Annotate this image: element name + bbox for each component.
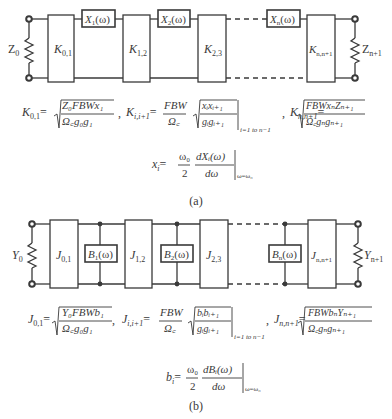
terminal-icon — [26, 75, 32, 81]
terminal-icon — [29, 281, 35, 287]
inverter-label-k23: K2,3 — [203, 42, 222, 58]
separator: , — [118, 106, 121, 120]
caption-b: (b) — [189, 399, 203, 413]
svg-text:ω=ω₀: ω=ω₀ — [237, 172, 253, 180]
svg-text:Ω꜀g₀g₁: Ω꜀g₀g₁ — [62, 322, 93, 334]
svg-text:2: 2 — [190, 380, 196, 392]
junction-dot-icon — [98, 282, 103, 287]
terminal-icon — [355, 221, 361, 227]
svg-text:Ω꜀gₙgₙ₊₁: Ω꜀gₙgₙ₊₁ — [306, 116, 343, 127]
inverter-box-j23 — [200, 220, 228, 288]
svg-text:gᵢgᵢ₊₁: gᵢgᵢ₊₁ — [197, 323, 219, 334]
inverter-label-k12: K1,2 — [128, 42, 147, 58]
svg-text:FBW: FBW — [163, 99, 187, 111]
load-resistor-icon — [354, 224, 362, 284]
filter-diagrams: Z0 Zn+1 K0,1 K1,2 K2,3 Kn,n+1 X1(ω) X2(ω… — [0, 0, 392, 419]
equation-j01: J0,1= Y₀FBWb₁ Ω꜀g₀g₁ — [28, 306, 104, 334]
separator: , — [282, 106, 285, 120]
svg-text:FBWbₙYₙ₊₁: FBWbₙYₙ₊₁ — [307, 307, 356, 318]
source-resistor-icon — [25, 19, 33, 78]
svg-text:J0,1=: J0,1= — [28, 312, 50, 328]
junction-dot-icon — [283, 282, 288, 287]
svg-text:Y₀FBWb₁: Y₀FBWb₁ — [62, 306, 104, 318]
terminal-icon — [26, 16, 32, 22]
svg-text:Ω꜀: Ω꜀ — [168, 115, 180, 127]
separator: , — [112, 313, 115, 327]
equation-jnn1: Jn,n+1= FBWbₙYₙ₊₁ Ω꜀gₙgₙ₊₁ — [274, 307, 356, 334]
inverter-label-jnn1: Jn,n+1 — [311, 249, 333, 264]
susceptance-label-b1: B1(ω) — [88, 248, 113, 262]
svg-text:gᵢgᵢ₊₁: gᵢgᵢ₊₁ — [202, 116, 224, 127]
svg-text:FBW: FBW — [159, 306, 183, 318]
svg-text:i=1 to n−1: i=1 to n−1 — [234, 333, 265, 341]
svg-text:K0,1=: K0,1= — [21, 105, 47, 121]
svg-text:2: 2 — [182, 167, 188, 179]
svg-text:FBWxₙZₙ₊₁: FBWxₙZₙ₊₁ — [305, 100, 353, 111]
inverter-box-j01 — [50, 220, 78, 288]
inverter-label-j23: J2,3 — [206, 248, 221, 264]
equation-kii1: Ki,i+1= FBW Ω꜀ xᵢxᵢ₊₁ gᵢgᵢ₊₁ i=1 to n−1 — [125, 99, 271, 134]
reactance-label-xn: Xn(ω) — [269, 13, 295, 27]
reactance-label-x2: X2(ω) — [160, 13, 186, 27]
terminal-icon — [29, 221, 35, 227]
junction-dot-icon — [283, 222, 288, 227]
svg-text:bi=: bi= — [166, 370, 181, 386]
junction-dot-icon — [98, 222, 103, 227]
reactance-label-x1: X1(ω) — [84, 13, 110, 27]
svg-text:dω: dω — [205, 167, 219, 179]
svg-text:Jn,n+1=: Jn,n+1= — [274, 312, 306, 328]
svg-text:Ji,i+1=: Ji,i+1= — [122, 312, 150, 328]
svg-text:bᵢbᵢ₊₁: bᵢbᵢ₊₁ — [197, 307, 219, 318]
junction-dot-icon — [175, 222, 180, 227]
svg-text:Ω꜀gₙgₙ₊₁: Ω꜀gₙgₙ₊₁ — [308, 323, 345, 334]
junction-dot-icon — [175, 282, 180, 287]
svg-text:dω: dω — [212, 380, 226, 392]
susceptance-label-b2: B2(ω) — [164, 248, 189, 262]
svg-text:i=1 to n−1: i=1 to n−1 — [240, 126, 271, 134]
equation-knn1: Kn,n+1= FBWxₙZₙ₊₁ Ω꜀gₙgₙ₊₁ — [289, 100, 353, 127]
svg-text:dXᵢ(ω): dXᵢ(ω) — [196, 150, 225, 163]
equation-k01: K0,1= Z₀FBWx₁ Ω꜀g₀g₁ — [21, 99, 103, 127]
svg-text:Ω꜀g₀g₁: Ω꜀g₀g₁ — [62, 115, 93, 127]
load-resistor-icon — [351, 19, 359, 78]
inverter-label-k01: K0,1 — [53, 42, 72, 58]
load-admittance-label: Yn+1 — [364, 248, 383, 264]
terminal-icon — [352, 75, 358, 81]
inverter-label-j12: J1,2 — [130, 248, 145, 264]
terminal-icon — [352, 16, 358, 22]
separator: , — [266, 313, 269, 327]
svg-text:ω₀: ω₀ — [187, 363, 198, 375]
inverter-label-j01: J0,1 — [56, 248, 71, 264]
svg-text:xi=: xi= — [151, 157, 167, 173]
source-impedance-label: Z0 — [8, 42, 19, 58]
caption-a: (a) — [189, 194, 202, 208]
susceptance-label-bn: Bn(ω) — [272, 248, 297, 262]
svg-text:Z₀FBWx₁: Z₀FBWx₁ — [62, 99, 103, 111]
inverter-label-knn1: Kn,n+1 — [308, 43, 333, 58]
load-impedance-label: Zn+1 — [362, 42, 382, 58]
svg-text:xᵢxᵢ₊₁: xᵢxᵢ₊₁ — [201, 100, 223, 111]
svg-text:dBᵢ(ω): dBᵢ(ω) — [203, 363, 232, 376]
source-resistor-icon — [28, 224, 36, 284]
svg-text:Ki,i+1=: Ki,i+1= — [125, 105, 157, 121]
terminal-icon — [355, 281, 361, 287]
svg-text:ω₀: ω₀ — [179, 150, 190, 162]
svg-text:ω=ω₀: ω=ω₀ — [245, 385, 261, 393]
svg-text:Ω꜀: Ω꜀ — [164, 322, 176, 334]
source-admittance-label: Y0 — [12, 248, 23, 264]
